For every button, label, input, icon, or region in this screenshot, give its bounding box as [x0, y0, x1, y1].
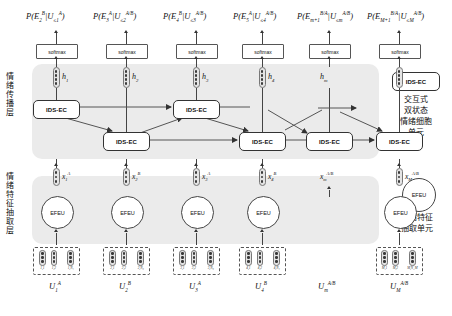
word-vector-row-4: 4,1 4,2 4,N₄: [240, 248, 285, 274]
x-to-cell-head-2: [124, 163, 128, 166]
word-label: M,1: [382, 266, 387, 270]
feature-state-vector-3: [193, 168, 200, 186]
efeu-unit-2[interactable]: EFEU: [111, 196, 144, 229]
prob-arrow-head-4: [260, 30, 264, 33]
word-vector-col: M,2: [392, 250, 399, 271]
x-sub-5: m: [323, 177, 326, 182]
feature-state-label-4: x4B: [268, 172, 276, 183]
u-to-efeu-head-4: [260, 229, 264, 232]
word-vector-col: 2,1: [109, 250, 116, 271]
word-label: 2,1: [110, 266, 114, 270]
prob-arrow-line-4: [262, 33, 263, 44]
feature-state-label-1: x1A: [62, 172, 70, 183]
h-sub-2: 2: [136, 78, 138, 83]
u-sup-6: A/B: [400, 280, 408, 286]
h-to-softmax-line-3: [196, 58, 197, 67]
prob-close-1: ): [62, 11, 65, 21]
u-sub-3: 3: [195, 287, 198, 293]
utterance-box-6: M,1 M,2 M,N_M: [376, 247, 423, 275]
ids-ec-cell-4[interactable]: IDS-EC: [239, 132, 286, 151]
cell-to-h-line-5: [329, 88, 330, 132]
ids-ec-cell-5[interactable]: IDS-EC: [306, 132, 353, 151]
hidden-state-vector-1: [53, 67, 60, 88]
cell-to-h-line-1: [56, 88, 57, 100]
word-label: 3,2: [192, 266, 196, 270]
probability-expression-3: P(E4B|U≤3A/B): [163, 11, 206, 23]
x-sup-1: A: [68, 171, 71, 176]
u-sup-4: B: [264, 280, 267, 286]
word-label: 1,N₁: [68, 266, 74, 270]
utterance-label-5: UmA/B: [318, 281, 335, 293]
ids-ec-cell-3[interactable]: IDS-EC: [173, 100, 220, 119]
word-vector-col: 3,2: [191, 250, 198, 271]
feature-state-label-3: x3A: [202, 172, 210, 183]
prob-close-2: ): [133, 11, 136, 21]
word-label: 4,N₄: [274, 266, 280, 270]
utterance-box-3: 3,1 3,2 3,N₃: [173, 247, 220, 275]
x-to-cell-line-5: [329, 190, 330, 197]
word-vector-col: 2,2: [121, 250, 128, 271]
word-vector: [191, 250, 198, 266]
utterance-label-2: U2B: [119, 281, 131, 293]
x-sub-4: 4: [271, 177, 273, 182]
word-vector-col: 4,N₄: [273, 250, 280, 271]
h-to-softmax-head-2: [124, 56, 128, 59]
prob-cond-sup-5: A/B: [343, 10, 351, 16]
x-to-cell-head-6: [397, 163, 401, 166]
u-sup-1: A: [58, 280, 61, 286]
prob-arrow-line-5: [329, 33, 330, 44]
word-vector: [137, 250, 144, 266]
u-to-efeu-line-4: [262, 233, 263, 245]
feature-state-vector-4: [259, 168, 266, 186]
probability-expression-1: P(E2B|U≤1A): [26, 11, 65, 23]
efeu-unit-3[interactable]: EFEU: [181, 196, 214, 229]
u-sub-6: M: [396, 287, 400, 293]
word-vector-row-6: M,1 M,2 M,N_M: [377, 248, 422, 274]
ids-ec-cell-6[interactable]: IDS-EC: [376, 132, 423, 151]
cell-to-h-line-4: [262, 88, 263, 132]
efeu-unit-4[interactable]: EFEU: [247, 196, 280, 229]
prob-arrow-head-3: [194, 30, 198, 33]
efeu-unit-1[interactable]: EFEU: [41, 196, 74, 229]
utterance-label-6: UMA/B: [390, 281, 408, 293]
hidden-state-vector-6: [396, 67, 403, 88]
probability-expression-6: P(EM+1B/A|U≤MA/B): [367, 11, 424, 23]
legend-ids-ec-line-2: 双状态: [390, 107, 442, 116]
cell-to-h-line-2: [126, 88, 127, 132]
x-sup-3: A: [208, 171, 211, 176]
utterance-label-4: U4B: [255, 281, 267, 293]
prob-arrow-head-2: [124, 30, 128, 33]
x-sub-1: 1: [65, 177, 67, 182]
prob-close-4: ): [273, 11, 276, 21]
word-vector: [409, 250, 416, 266]
hidden-state-label-3: h3: [202, 73, 208, 83]
efeu-unit-6[interactable]: EFEU: [384, 196, 417, 229]
utterance-box-2: 2,1 2,2 2,N₂: [103, 247, 150, 275]
ids-ec-cell-2[interactable]: IDS-EC: [103, 132, 150, 151]
cell-to-h-line-3: [196, 88, 197, 100]
prob-cond-sub-3: ≤3: [190, 17, 195, 23]
prob-arrow-line-2: [126, 33, 127, 44]
word-vector: [245, 250, 252, 266]
word-vector-col: 3,N₃: [207, 250, 214, 271]
word-label: 3,N₃: [208, 266, 214, 270]
word-vector-col: 1,N₁: [67, 250, 74, 271]
prob-close-5: ): [350, 11, 353, 21]
word-vector: [67, 250, 74, 266]
h-to-softmax-head-4: [260, 56, 264, 59]
prob-open-6: P(: [367, 11, 375, 21]
prob-open-3: P(: [163, 11, 171, 21]
prob-target-sub-1: 2: [39, 17, 42, 23]
prob-target-sub-3: 4: [176, 17, 179, 23]
word-vector-col: 3,1: [179, 250, 186, 271]
u-to-efeu-head-1: [54, 229, 58, 232]
prob-cond-sub-6: ≤M: [407, 17, 414, 23]
ids-ec-cell-1[interactable]: IDS-EC: [33, 100, 80, 119]
figure-canvas: 情绪传播层 情绪特征抽取层 P(E2B|U≤1A) P(E3A|U≤2A/B) …: [0, 0, 452, 316]
u-to-efeu-line-6: [399, 233, 400, 245]
prob-target-sub-6: M+1: [380, 17, 390, 23]
word-vector-col: M,N_M: [407, 250, 417, 271]
prob-cond-sub-5: ≤m: [336, 17, 342, 23]
prob-arrow-head-6: [397, 30, 401, 33]
prob-close-6: ): [421, 11, 424, 21]
